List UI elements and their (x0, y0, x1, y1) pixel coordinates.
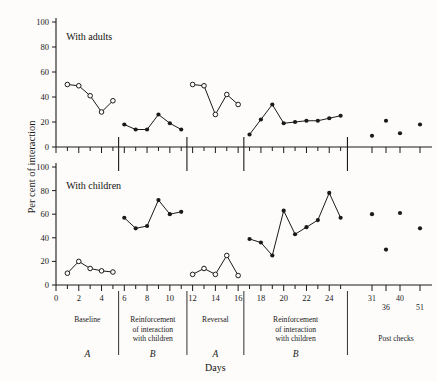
data-point-filled (179, 127, 183, 131)
data-point-filled (339, 114, 343, 118)
data-point-filled (122, 216, 126, 220)
data-point-filled (270, 102, 274, 106)
y-tick-label-1-100: 100 (36, 162, 49, 172)
series-line-1-3 (250, 193, 341, 256)
data-point-filled (247, 132, 251, 136)
data-point-filled (259, 117, 263, 121)
data-point-filled (398, 131, 402, 135)
data-point-open (99, 110, 104, 115)
data-point-filled (418, 226, 422, 230)
phase-label-postchecks: Post checks (378, 334, 414, 343)
x-tick-label-22: 22 (302, 293, 311, 303)
y-tick-label-0-60: 60 (41, 67, 50, 77)
y-tick-label-0-80: 80 (41, 42, 50, 52)
data-point-filled (398, 211, 402, 215)
phase-label-reinforce2-l3: with children (276, 334, 316, 343)
data-point-filled (282, 209, 286, 213)
y-tick-label-1-40: 40 (41, 233, 50, 243)
data-point-filled (384, 248, 388, 252)
figure-container: 0204060801000204060801000246810121416182… (0, 0, 437, 382)
phase-label-reinforce1-l2: of interaction (132, 325, 173, 334)
data-point-filled (339, 216, 343, 220)
x-tick-label-24: 24 (325, 293, 334, 303)
x-tick-label-14: 14 (211, 293, 220, 303)
x-tick-label-4: 4 (99, 293, 104, 303)
series-line-0-3 (250, 105, 341, 135)
data-point-filled (316, 218, 320, 222)
data-point-filled (418, 122, 422, 126)
data-point-filled (293, 232, 297, 236)
x-tick-label-2: 2 (77, 293, 81, 303)
data-point-open (190, 82, 195, 87)
x-tick-label-6: 6 (122, 293, 126, 303)
data-point-filled (145, 127, 149, 131)
data-point-open (213, 112, 218, 117)
phase-label-reinforce2-l2: of interaction (275, 325, 316, 334)
data-point-filled (316, 119, 320, 123)
x-axis-title: Days (205, 362, 226, 373)
series-line-0-1 (124, 115, 181, 130)
x-tick-label-16: 16 (234, 293, 243, 303)
data-point-filled (282, 121, 286, 125)
phase-label-reinforce1-l3: with children (133, 334, 173, 343)
data-point-filled (370, 134, 374, 138)
data-point-open (88, 93, 93, 98)
data-point-open (236, 102, 241, 107)
abab-reversal-chart: 0204060801000204060801000246810121416182… (0, 0, 437, 382)
y-tick-label-0-40: 40 (41, 92, 50, 102)
data-point-open (224, 92, 229, 97)
x-tick-label-0: 0 (54, 293, 58, 303)
data-point-open (213, 272, 218, 277)
data-point-filled (247, 237, 251, 241)
x-tick-label-8: 8 (145, 293, 149, 303)
data-point-open (76, 83, 81, 88)
postcheck-label-31: 31 (368, 294, 376, 303)
phase-letter-a1: A (83, 349, 90, 359)
data-point-filled (179, 210, 183, 214)
phase-label-reinforce1-l1: Reinforcement (130, 315, 176, 324)
data-point-open (65, 82, 70, 87)
y-tick-label-1-0: 0 (45, 280, 49, 290)
data-point-filled (293, 120, 297, 124)
phase-letter-a2: A (211, 349, 218, 359)
phase-letter-b1: B (150, 349, 156, 359)
postcheck-label-36: 36 (382, 303, 390, 312)
y-tick-label-1-60: 60 (41, 209, 50, 219)
data-point-open (76, 259, 81, 264)
data-point-filled (156, 112, 160, 116)
data-point-open (202, 266, 207, 271)
data-point-filled (122, 122, 126, 126)
data-point-open (202, 83, 207, 88)
y-tick-label-0-0: 0 (45, 142, 49, 152)
y-tick-label-1-80: 80 (41, 186, 50, 196)
series-line-0-2 (193, 85, 239, 115)
postcheck-label-51: 51 (416, 303, 424, 312)
data-point-filled (134, 226, 138, 230)
y-tick-label-1-20: 20 (41, 256, 50, 266)
data-point-open (88, 266, 93, 271)
phase-label-baseline: Baseline (74, 315, 101, 324)
data-point-open (236, 273, 241, 278)
panel-title-children: With children (66, 180, 121, 191)
data-point-open (190, 272, 195, 277)
postcheck-label-40: 40 (396, 294, 404, 303)
data-point-filled (384, 119, 388, 123)
data-point-open (99, 269, 104, 274)
phase-label-reversal: Reversal (202, 315, 229, 324)
phase-label-reinforce2-l1: Reinforcement (273, 315, 319, 324)
x-tick-label-12: 12 (188, 293, 197, 303)
data-point-filled (270, 253, 274, 257)
data-point-filled (156, 198, 160, 202)
data-point-filled (327, 191, 331, 195)
data-point-open (224, 253, 229, 258)
phase-letter-b2: B (293, 349, 299, 359)
x-tick-label-10: 10 (166, 293, 175, 303)
x-tick-label-18: 18 (257, 293, 266, 303)
data-point-open (65, 271, 70, 276)
data-point-filled (168, 121, 172, 125)
y-tick-label-0-20: 20 (41, 117, 50, 127)
data-point-filled (168, 212, 172, 216)
data-point-filled (370, 212, 374, 216)
data-point-open (111, 270, 116, 275)
data-point-filled (259, 240, 263, 244)
